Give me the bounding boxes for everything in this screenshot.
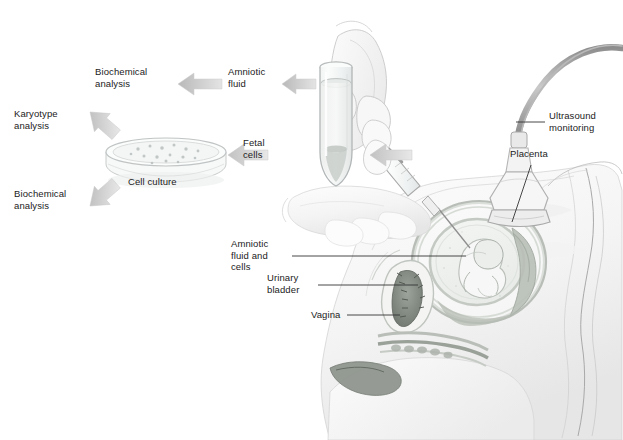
- label-amniotic-fluid-and-cells: Amniotic fluid and cells: [231, 238, 268, 273]
- label-urinary-bladder: Urinary bladder: [267, 272, 299, 295]
- label-vagina: Vagina: [311, 309, 340, 321]
- label-amniotic-fluid: Amniotic fluid: [228, 66, 265, 89]
- leader-placenta: [512, 165, 531, 222]
- label-cell-culture: Cell culture: [128, 176, 177, 188]
- leader-lines: [0, 0, 623, 440]
- label-placenta: Placenta: [510, 148, 548, 160]
- label-fetal-cells: Fetal cells: [243, 137, 265, 160]
- label-biochemical-analysis-bottom: Biochemical analysis: [14, 188, 66, 211]
- label-ultrasound-monitoring: Ultrasound monitoring: [549, 110, 596, 133]
- label-karyotype-analysis: Karyotype analysis: [14, 108, 58, 131]
- label-biochemical-analysis-top: Biochemical analysis: [95, 66, 147, 89]
- amniocentesis-figure: Biochemical analysis Amniotic fluid Kary…: [0, 0, 623, 440]
